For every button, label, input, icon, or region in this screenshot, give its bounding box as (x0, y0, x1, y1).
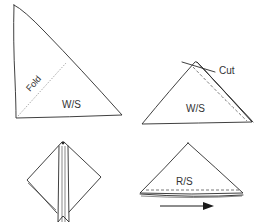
step1-side-label: W/S (62, 99, 81, 110)
step4-arrow-right-icon (160, 202, 214, 210)
step4-side-label: R/S (176, 176, 193, 187)
step3-diamond-left-fold (28, 183, 56, 210)
step3-diamond-right (64, 142, 101, 212)
step2-figure: Cut W/S (142, 62, 253, 124)
step1-fold-label: Fold (24, 74, 43, 94)
step2-cut-label: Cut (219, 65, 235, 76)
step3-apex-dot (62, 142, 65, 145)
step3-diamond-left (27, 142, 62, 213)
step1-figure: Fold W/S (14, 5, 122, 118)
step1-fold-line (18, 63, 66, 116)
step3-figure (27, 142, 101, 222)
step4-figure: R/S (140, 143, 243, 210)
step3-strip-right (68, 146, 69, 222)
sewing-diagram: Fold W/S Cut W/S (0, 0, 264, 222)
step3-strip-notch (58, 216, 69, 222)
step3-strip-left (58, 146, 59, 222)
step2-side-label: W/S (186, 103, 205, 114)
